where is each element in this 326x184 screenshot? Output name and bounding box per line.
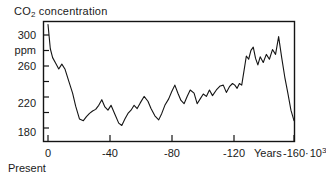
chart-plot-area [0, 0, 326, 184]
co2-data-line [48, 24, 294, 125]
co2-concentration-chart-figure: CO2 concentration 300 ppm 260 220 180 0 … [0, 0, 326, 184]
x-axis-ticks [48, 135, 294, 142]
y-axis-ticks [44, 35, 50, 128]
plot-frame [44, 22, 295, 142]
